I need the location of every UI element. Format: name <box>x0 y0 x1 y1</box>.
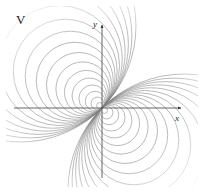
x-axis-label: x <box>174 113 179 123</box>
potential-contour-figure: x y V <box>0 0 204 193</box>
contour-plot-svg: x y V <box>0 0 204 193</box>
figure-label: V <box>16 12 26 27</box>
y-axis-label: y <box>92 19 97 29</box>
